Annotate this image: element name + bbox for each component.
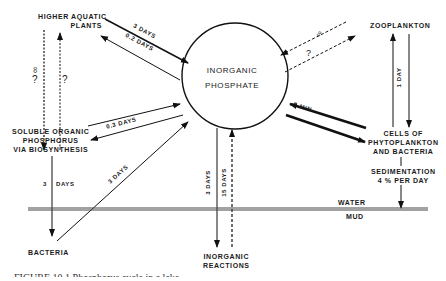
- node-sedimentation: SEDIMENTATION 4 % PER DAY: [371, 167, 436, 185]
- edge-label-soluble-to-bacteria-number: 3: [43, 180, 47, 189]
- node-label: SEDIMENTATION: [371, 167, 436, 176]
- edge-label-phosphate-to-reactions: 3 DAYS: [204, 170, 213, 195]
- node-label: CELLS OF: [368, 129, 439, 138]
- thick-arrow-phosphate-to-cells: [286, 115, 365, 142]
- node-soluble-organic-phosphorus: SOLUBLE ORGANIC PHOSPHORUS VIA BIOSYNTHE…: [12, 127, 89, 154]
- infinity-marker-left: ∞: [31, 66, 40, 73]
- question-marker-left-up: ?: [62, 75, 68, 84]
- dashed-arrow-infinity-to-phosphate: [281, 22, 346, 55]
- center-label-line2: PHOSPHATE: [205, 78, 259, 93]
- question-marker-left: ?: [32, 75, 38, 84]
- edge-label-reactions-to-phosphate: 15 DAYS: [220, 168, 229, 197]
- node-cells-of-phytoplankton: CELLS OF PHYTOPLANKTON AND BACTERIA: [368, 129, 439, 156]
- node-bacteria: BACTERIA: [28, 248, 69, 257]
- center-label-line1: INORGANIC: [205, 63, 259, 78]
- node-label: AND BACTERIA: [368, 147, 439, 156]
- node-label: REACTIONS: [203, 261, 250, 270]
- node-label: 4 % PER DAY: [371, 176, 436, 185]
- mud-label: MUD: [346, 212, 364, 221]
- node-label: SOLUBLE ORGANIC: [12, 127, 89, 136]
- edge-label-zooplankton-cells: 1 DAY: [395, 67, 404, 87]
- node-zooplankton: ZOOPLANKTON: [370, 21, 431, 30]
- node-inorganic-reactions: INORGANIC REACTIONS: [203, 252, 250, 270]
- node-label: PHYTOPLANKTON: [368, 138, 439, 147]
- node-label: PHOSPHORUS: [12, 136, 89, 145]
- water-label: WATER: [338, 198, 366, 207]
- dashed-arrow-phosphate-to-unknown: [285, 36, 355, 72]
- node-higher-aquatic-plants: HIGHER AQUATIC PLANTS: [38, 12, 107, 30]
- node-label: VIA BIOSYNTHESIS: [12, 145, 89, 154]
- arrow-phosphate-to-soluble: [91, 115, 183, 140]
- node-label: INORGANIC: [203, 252, 250, 261]
- edge-label-soluble-to-bacteria-unit: DAYS: [56, 180, 75, 189]
- center-label: INORGANIC PHOSPHATE: [205, 63, 259, 93]
- question-marker-right: ?: [306, 49, 312, 58]
- node-label: HIGHER AQUATIC: [38, 12, 107, 21]
- node-label: PLANTS: [38, 21, 107, 30]
